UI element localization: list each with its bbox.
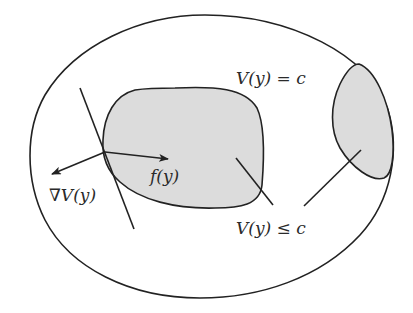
gradient-arrow [52, 152, 105, 174]
diagram-canvas: V(y) = c ∇V(y) f(y) V(y) ≤ c [0, 0, 413, 313]
sublevel-region-main [103, 87, 264, 208]
level-set-label: V(y) = c [236, 70, 306, 87]
sublevel-region-right [333, 64, 394, 179]
vector-field-label: f(y) [150, 168, 179, 185]
gradient-label: ∇V(y) [49, 187, 96, 204]
sublevel-set-label: V(y) ≤ c [236, 220, 306, 237]
pointer-line-right [304, 150, 361, 206]
diagram-svg [0, 0, 413, 313]
